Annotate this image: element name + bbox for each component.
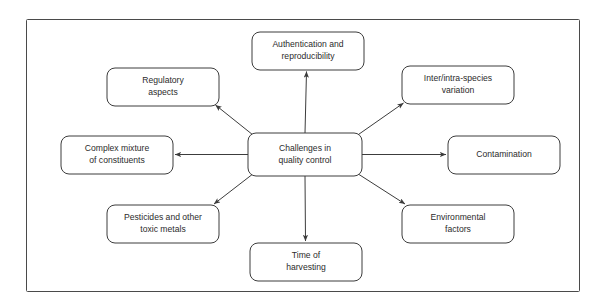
node-pesticides[interactable]: Pesticides and othertoxic metals [107, 205, 219, 243]
node-center[interactable]: Challenges inquality control [248, 133, 362, 176]
node-label2-time-of-harvesting: harvesting [286, 262, 326, 272]
node-label-pesticides: Pesticides and other [124, 212, 202, 222]
node-label-authentication: Authentication and [272, 39, 343, 49]
connector-center-to-time-of-harvesting [305, 176, 306, 241]
node-regulatory[interactable]: Regulatoryaspects [107, 68, 219, 106]
node-label-contamination: Contamination [476, 149, 532, 159]
node-label2-authentication: reproducibility [281, 51, 335, 61]
node-label2-pesticides: toxic metals [140, 224, 185, 234]
node-label-complex-mixture: Complex mixture [85, 143, 150, 153]
node-label-time-of-harvesting: Time of [292, 250, 321, 260]
node-contamination[interactable]: Contamination [448, 136, 560, 174]
node-inter-intra-species[interactable]: Inter/intra-speciesvariation [402, 66, 514, 104]
node-label2-complex-mixture: of constituents [89, 155, 144, 165]
node-label2-inter-intra-species: variation [442, 85, 475, 95]
node-label2-center: quality control [278, 155, 331, 165]
node-complex-mixture[interactable]: Complex mixtureof constituents [61, 136, 173, 174]
node-label2-environmental: factors [445, 224, 471, 234]
node-label-inter-intra-species: Inter/intra-species [424, 73, 492, 83]
node-authentication[interactable]: Authentication andreproducibility [252, 32, 364, 70]
node-label-regulatory: Regulatory [142, 75, 184, 85]
node-label-environmental: Environmental [431, 212, 486, 222]
diagram-svg: Authentication andreproducibilityRegulat… [0, 0, 606, 303]
node-label2-regulatory: aspects [148, 87, 178, 97]
node-label-center: Challenges in [279, 143, 331, 153]
node-time-of-harvesting[interactable]: Time ofharvesting [250, 243, 362, 281]
node-environmental[interactable]: Environmentalfactors [402, 205, 514, 243]
diagram-canvas: Authentication andreproducibilityRegulat… [0, 0, 606, 303]
